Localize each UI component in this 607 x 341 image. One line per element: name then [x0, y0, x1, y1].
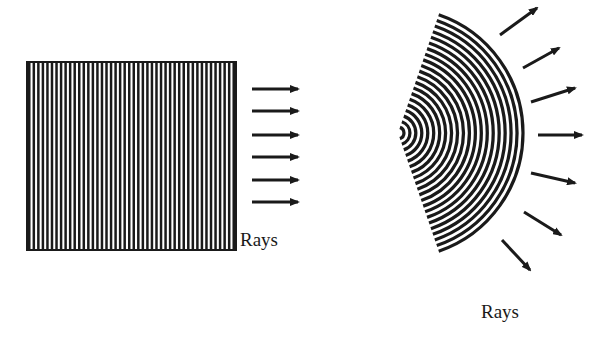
- plane-wave-figure: [27, 62, 298, 250]
- wavefront-arc: [400, 127, 404, 138]
- plane-wave-box-border: [27, 62, 236, 250]
- spherical-wave-rays-label: Rays: [481, 302, 519, 321]
- ray-arrow-icon: [502, 240, 530, 270]
- ray-arrow-icon: [531, 173, 575, 183]
- plane-wavefront-stripes: [29, 62, 233, 250]
- spherical-wave-figure: [400, 8, 582, 270]
- ray-arrow-icon: [524, 212, 561, 235]
- ray-arrow-icon: [500, 8, 537, 35]
- spherical-wavefront-arcs: [400, 15, 523, 251]
- diagram-canvas: [0, 0, 607, 341]
- plane-wave-rays-label: Rays: [240, 230, 278, 249]
- wavefront-diagram: Rays Rays: [0, 0, 607, 341]
- plane-wave-ray-arrows: [252, 89, 298, 202]
- ray-arrow-icon: [523, 48, 559, 68]
- ray-arrow-icon: [531, 88, 575, 102]
